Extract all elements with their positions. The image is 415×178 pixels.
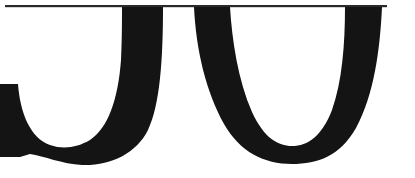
letters-graphic	[0, 0, 415, 178]
letterform-image: Cropped close-up of large black serif le…	[0, 0, 415, 178]
horizontal-rule	[5, 5, 387, 7]
